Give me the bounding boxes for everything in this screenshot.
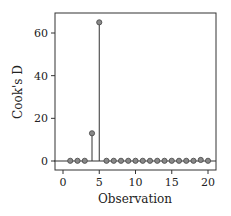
data-point (169, 158, 174, 163)
x-tick-label: 10 (129, 176, 143, 189)
y-axis-label: Cook's D (11, 65, 25, 119)
data-point (104, 158, 109, 163)
data-point (147, 158, 152, 163)
data-point (82, 158, 87, 163)
data-point (89, 131, 94, 136)
data-point (162, 158, 167, 163)
data-point (97, 20, 102, 25)
data-point (184, 158, 189, 163)
plot-frame (55, 13, 216, 170)
y-axis: 0204060 (34, 27, 55, 168)
data-point (68, 158, 73, 163)
data-point (205, 158, 210, 163)
y-tick-label: 0 (41, 155, 48, 168)
data-point (176, 158, 181, 163)
stems (70, 22, 208, 161)
data-point (111, 158, 116, 163)
x-axis: 05101520 (60, 170, 216, 189)
data-point (133, 158, 138, 163)
data-point (191, 158, 196, 163)
data-point (118, 158, 123, 163)
x-tick-label: 15 (165, 176, 179, 189)
cooks-distance-chart: 0204060 05101520 Observation Cook's D (0, 0, 231, 216)
x-tick-label: 5 (96, 176, 103, 189)
data-point (140, 158, 145, 163)
x-tick-label: 20 (201, 176, 215, 189)
data-point (75, 158, 80, 163)
data-point (126, 158, 131, 163)
x-axis-label: Observation (98, 192, 172, 206)
data-point (155, 158, 160, 163)
x-tick-label: 0 (60, 176, 67, 189)
y-tick-label: 60 (34, 27, 48, 40)
data-points (68, 20, 211, 164)
plot-border (55, 13, 216, 170)
y-tick-label: 20 (34, 112, 48, 125)
y-tick-label: 40 (34, 70, 48, 83)
data-point (198, 157, 203, 162)
